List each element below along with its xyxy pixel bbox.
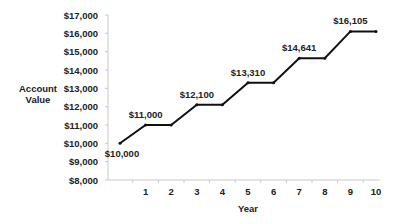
- y-tick-label: $9,000: [69, 156, 98, 167]
- data-point: [119, 142, 122, 145]
- y-axis-title: AccountValue: [19, 83, 58, 105]
- y-tick-label: $13,000: [64, 83, 98, 94]
- data-point: [323, 57, 326, 60]
- y-axis-ticks: $8,000$9,000$10,000$11,000$12,000$13,000…: [64, 10, 108, 186]
- y-tick-label: $11,000: [64, 120, 98, 131]
- data-point: [272, 81, 275, 84]
- x-tick-label: 5: [245, 186, 251, 197]
- y-tick-label: $16,000: [64, 28, 98, 39]
- data-point: [221, 103, 224, 106]
- data-label: $10,000: [105, 148, 139, 159]
- x-tick-label: 4: [220, 186, 226, 197]
- x-tick-label: 10: [371, 186, 382, 197]
- x-tick-label: 9: [348, 186, 353, 197]
- x-tick-label: 7: [297, 186, 302, 197]
- data-label: $14,641: [282, 42, 317, 53]
- data-point: [144, 124, 147, 127]
- x-tick-label: 1: [143, 186, 149, 197]
- data-point-markers: [119, 30, 378, 145]
- account-value-line: [120, 31, 376, 143]
- y-tick-label: $12,000: [64, 101, 98, 112]
- data-label: $16,105: [333, 15, 368, 26]
- y-tick-label: $10,000: [64, 138, 98, 149]
- y-tick-label: $15,000: [64, 46, 98, 57]
- y-tick-label: $17,000: [64, 10, 98, 21]
- data-label: $13,310: [231, 67, 265, 78]
- data-point: [247, 81, 250, 84]
- data-point: [195, 103, 198, 106]
- y-tick-label: $14,000: [64, 65, 98, 76]
- data-point: [170, 124, 173, 127]
- chart: AccountValue $8,000$9,000$10,000$11,000$…: [0, 0, 408, 224]
- y-tick-label: $8,000: [69, 175, 98, 186]
- data-labels: $10,000$11,000$12,100$13,310$14,641$16,1…: [105, 15, 368, 159]
- data-label: $12,100: [180, 89, 214, 100]
- x-axis-title: Year: [238, 203, 258, 214]
- x-tick-label: 8: [322, 186, 327, 197]
- x-tick-label: 3: [194, 186, 199, 197]
- data-point: [349, 30, 352, 33]
- data-point: [375, 30, 378, 33]
- x-tick-label: 2: [169, 186, 174, 197]
- data-point: [298, 57, 301, 60]
- x-tick-label: 6: [271, 186, 276, 197]
- y-axis-title-line: Value: [26, 94, 51, 105]
- y-axis-title-line: Account: [19, 83, 58, 94]
- data-label: $11,000: [129, 109, 163, 120]
- x-axis-ticks: 12345678910: [133, 180, 381, 197]
